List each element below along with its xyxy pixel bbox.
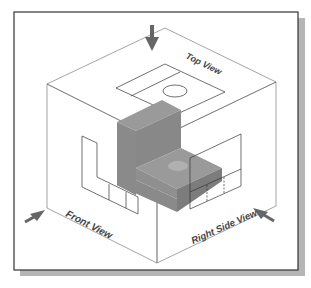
glass-box-diagram: Top View Front View Right Side View <box>0 0 311 288</box>
